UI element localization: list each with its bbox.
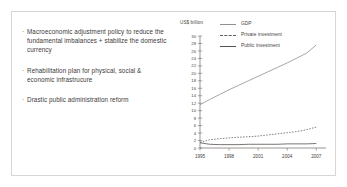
svg-text:20: 20 <box>191 71 196 76</box>
bullet-marker-icon: · <box>22 66 24 75</box>
svg-text:6: 6 <box>194 123 197 128</box>
series-line <box>200 127 316 142</box>
y-axis-title: US$ billion <box>180 20 203 25</box>
svg-text:0: 0 <box>194 146 197 151</box>
list-item: ·Rehabilitation plan for physical, socia… <box>22 66 170 84</box>
svg-text:1995: 1995 <box>195 154 206 159</box>
svg-text:4: 4 <box>194 131 197 136</box>
svg-text:16: 16 <box>191 86 196 91</box>
svg-text:14: 14 <box>191 93 196 98</box>
svg-text:2007: 2007 <box>311 154 322 159</box>
svg-text:30: 30 <box>191 34 196 39</box>
legend-item-gdp: GDP <box>220 18 328 29</box>
svg-text:28: 28 <box>191 41 196 46</box>
bullet-marker-icon: · <box>22 27 24 36</box>
list-item: ·Macroeconomic adjustment policy to redu… <box>22 27 170 55</box>
svg-text:26: 26 <box>191 49 196 54</box>
legend-label: GDP <box>241 21 252 26</box>
line-chart: US$ billion GDP Private investment Publi… <box>176 18 328 168</box>
plot-svg: 0246810121416182022242628301995199820012… <box>176 32 328 168</box>
bullet-text: Drastic public administration reform <box>27 96 129 103</box>
legend-swatch-solid-icon <box>220 22 236 26</box>
svg-text:8: 8 <box>194 116 197 121</box>
bullet-list: ·Macroeconomic adjustment policy to redu… <box>22 27 170 104</box>
svg-text:2: 2 <box>194 138 197 143</box>
bullet-text: Macroeconomic adjustment policy to reduc… <box>27 28 166 53</box>
svg-text:12: 12 <box>191 101 196 106</box>
slide-canvas: ·Macroeconomic adjustment policy to redu… <box>0 0 347 187</box>
svg-text:22: 22 <box>191 63 196 68</box>
svg-text:1998: 1998 <box>224 154 235 159</box>
bullet-text: Rehabilitation plan for physical, social… <box>27 67 141 83</box>
list-item: ·Drastic public administration reform <box>22 95 170 104</box>
svg-text:24: 24 <box>191 56 196 61</box>
series-line <box>200 143 316 145</box>
svg-text:2004: 2004 <box>282 154 293 159</box>
series-line <box>200 45 316 105</box>
svg-text:2001: 2001 <box>253 154 264 159</box>
svg-text:18: 18 <box>191 78 196 83</box>
svg-text:10: 10 <box>191 108 196 113</box>
bullet-marker-icon: · <box>22 95 24 104</box>
plot-area: 0246810121416182022242628301995199820012… <box>176 32 328 168</box>
